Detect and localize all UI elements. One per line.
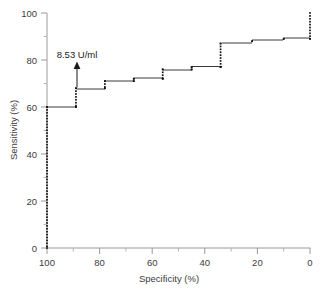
data-point-marker [46, 173, 48, 175]
data-point-marker [309, 21, 311, 23]
data-point-marker [46, 176, 48, 178]
x-tick-label-0: 0 [307, 257, 312, 268]
data-point-marker [309, 27, 311, 29]
data-point-marker [162, 69, 164, 71]
data-point-marker [46, 240, 48, 242]
annotation-threshold: 8.53 U/ml [57, 49, 98, 88]
data-point-marker [191, 69, 193, 71]
data-point-marker [46, 170, 48, 172]
data-point-marker [46, 147, 48, 149]
data-point-marker [46, 132, 48, 134]
data-point-marker [75, 87, 77, 89]
data-point-marker [220, 46, 222, 48]
data-point-marker [46, 187, 48, 189]
data-point-marker [75, 90, 77, 92]
data-point-marker [46, 112, 48, 114]
data-point-marker [220, 60, 222, 62]
data-point-marker [46, 228, 48, 230]
data-point-marker [46, 225, 48, 227]
data-point-marker [46, 184, 48, 186]
data-point-marker [104, 87, 106, 89]
data-point-marker [46, 193, 48, 195]
data-point-marker [220, 63, 222, 65]
data-point-marker [46, 144, 48, 146]
data-point-marker [46, 247, 48, 249]
data-point-marker [104, 80, 106, 82]
x-axis-ticks [47, 248, 310, 254]
data-point-marker [46, 245, 48, 247]
x-tick-label-40: 40 [200, 257, 211, 268]
data-point-marker [133, 78, 135, 80]
x-tick-label-100: 100 [39, 257, 55, 268]
data-point-marker [46, 179, 48, 181]
data-point-marker [309, 24, 311, 26]
data-point-marker [46, 231, 48, 233]
data-point-marker [220, 49, 222, 51]
data-point-marker [75, 96, 77, 98]
data-point-marker [46, 213, 48, 215]
data-point-marker [46, 141, 48, 143]
data-point-marker [46, 161, 48, 163]
data-point-marker [46, 121, 48, 123]
data-point-marker [46, 115, 48, 117]
annotation-label: 8.53 U/ml [57, 49, 98, 60]
data-point-marker [46, 109, 48, 111]
y-tick-label-40: 40 [26, 149, 37, 160]
data-point-marker [46, 153, 48, 155]
data-point-marker [46, 237, 48, 239]
y-axis-tick-labels: 0 20 40 60 80 100 [21, 8, 37, 254]
data-point-marker [75, 93, 77, 95]
data-point-marker [46, 205, 48, 207]
data-point-marker [46, 150, 48, 152]
y-tick-label-100: 100 [21, 8, 37, 19]
data-point-marker [46, 219, 48, 221]
x-tick-label-20: 20 [252, 257, 263, 268]
data-point-marker [46, 242, 48, 244]
roc-chart-container: 0 20 40 60 80 100 100 80 60 40 [0, 0, 321, 288]
y-tick-label-60: 60 [26, 102, 37, 113]
x-axis-title: Specificity (%) [139, 273, 199, 284]
y-tick-label-20: 20 [26, 196, 37, 207]
x-tick-label-60: 60 [147, 257, 158, 268]
data-point-marker [191, 66, 193, 68]
data-point-marker [309, 35, 311, 37]
data-point-marker [46, 208, 48, 210]
data-point-marker [46, 190, 48, 192]
data-point-marker [309, 30, 311, 32]
data-point-marker [46, 202, 48, 204]
data-point-marker [75, 99, 77, 101]
data-point-marker [75, 106, 77, 108]
data-point-marker [309, 15, 311, 17]
data-point-marker [133, 80, 135, 82]
y-tick-label-0: 0 [32, 243, 37, 254]
data-point-marker [46, 167, 48, 169]
data-point-marker [162, 74, 164, 76]
data-point-marker [46, 155, 48, 157]
data-point-marker [283, 38, 285, 40]
data-point-marker [309, 18, 311, 20]
x-axis-tick-labels: 100 80 60 40 20 0 [39, 257, 313, 268]
x-tick-label-80: 80 [94, 257, 105, 268]
data-point-marker [220, 54, 222, 56]
data-point-marker [46, 164, 48, 166]
data-point-marker [220, 57, 222, 59]
data-point-marker [309, 38, 311, 40]
data-point-marker [46, 124, 48, 126]
data-point-marker [46, 222, 48, 224]
data-point-marker [220, 51, 222, 53]
data-point-marker [309, 32, 311, 34]
data-point-marker [220, 43, 222, 45]
data-point-marker [251, 40, 253, 42]
data-point-marker [46, 211, 48, 213]
data-point-marker [46, 199, 48, 201]
y-axis-title: Sensitivity (%) [8, 100, 19, 160]
data-point-marker [104, 83, 106, 85]
data-point-marker [46, 182, 48, 184]
annotation-arrow-head [74, 62, 81, 70]
data-point-marker [75, 102, 77, 104]
data-point-marker [220, 66, 222, 68]
roc-chart-svg: 0 20 40 60 80 100 100 80 60 40 [0, 0, 321, 288]
data-point-marker [46, 118, 48, 120]
y-tick-label-80: 80 [26, 55, 37, 66]
data-point-marker [46, 135, 48, 137]
